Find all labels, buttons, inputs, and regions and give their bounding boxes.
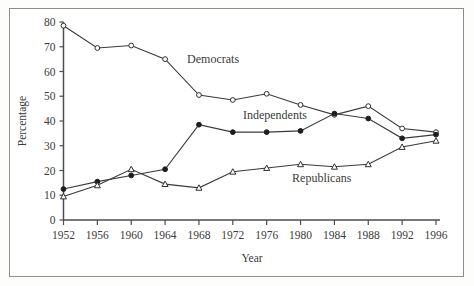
series-label-republicans: Republicans xyxy=(292,171,352,185)
y-tick-label: 80 xyxy=(44,16,56,28)
data-point xyxy=(264,91,269,96)
data-point xyxy=(298,129,303,134)
data-point xyxy=(230,98,235,103)
x-tick-label: 1960 xyxy=(120,229,143,241)
series-label-independents: Independents xyxy=(243,108,307,122)
data-point xyxy=(197,93,202,98)
figure-container: 01020304050607080 1952195619601964196819… xyxy=(0,0,474,286)
data-point xyxy=(366,116,371,121)
series-label-democrats: Democrats xyxy=(187,52,239,66)
x-tick-label: 1968 xyxy=(187,229,210,241)
series-label-group: DemocratsIndependentsRepublicans xyxy=(187,52,352,186)
y-tick-label: 50 xyxy=(44,90,56,102)
y-tick-label: 20 xyxy=(44,165,56,177)
x-tick-label: 1952 xyxy=(52,229,75,241)
data-point xyxy=(128,166,134,171)
x-tick-label: 1984 xyxy=(323,229,346,241)
y-axis-title: Percentage xyxy=(16,96,29,146)
data-point xyxy=(400,136,405,141)
y-tick-label: 10 xyxy=(44,189,56,201)
x-axis-title: Year xyxy=(241,252,262,264)
data-point xyxy=(95,46,100,51)
data-point xyxy=(129,43,134,48)
y-tick-label: 40 xyxy=(44,115,56,127)
x-tick-label: 1956 xyxy=(86,229,109,241)
data-point xyxy=(366,104,371,109)
x-tick-label: 1992 xyxy=(391,229,414,241)
series-republicans xyxy=(61,138,440,199)
series-independents xyxy=(61,111,438,191)
data-point xyxy=(163,167,168,172)
x-tick-label: 1976 xyxy=(255,229,278,241)
x-tick-label: 1972 xyxy=(221,229,244,241)
data-point xyxy=(197,122,202,127)
line-chart: 01020304050607080 1952195619601964196819… xyxy=(0,0,474,286)
x-tick-label: 1988 xyxy=(357,229,380,241)
y-tick-label: 30 xyxy=(44,140,56,152)
x-tick-label: 1964 xyxy=(154,229,177,241)
data-point xyxy=(129,173,134,178)
data-point xyxy=(433,138,439,143)
data-point xyxy=(264,130,269,135)
x-tick-label: 1996 xyxy=(425,229,448,241)
data-point xyxy=(434,132,439,137)
data-point xyxy=(61,187,66,192)
data-point xyxy=(230,130,235,135)
data-point xyxy=(332,111,337,116)
series-path xyxy=(64,141,437,197)
y-tick-label: 0 xyxy=(50,214,56,226)
series-path xyxy=(64,114,437,189)
data-point xyxy=(400,126,405,131)
y-tick-label: 60 xyxy=(44,66,56,78)
x-tick-label: 1980 xyxy=(289,229,312,241)
y-tick-label-group: 01020304050607080 xyxy=(44,16,56,226)
data-point xyxy=(61,23,66,28)
y-tick-label: 70 xyxy=(44,41,56,53)
x-tick-label-group: 1952195619601964196819721976198019841988… xyxy=(52,229,448,241)
data-point xyxy=(163,57,168,62)
